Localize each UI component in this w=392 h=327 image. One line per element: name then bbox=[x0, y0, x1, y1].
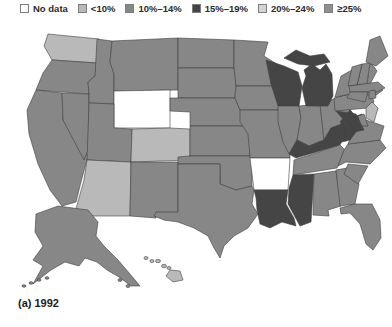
state-nebraska bbox=[170, 98, 246, 126]
legend-item-20-24: 20%–24% bbox=[258, 3, 314, 14]
figure-caption: (a) 1992 bbox=[18, 297, 59, 309]
legend-label: 20%–24% bbox=[271, 3, 314, 14]
state-michigan-upper bbox=[284, 50, 330, 66]
us-map-svg bbox=[0, 18, 392, 298]
ge25-swatch bbox=[324, 4, 333, 13]
legend-label: <10% bbox=[91, 3, 116, 14]
legend-label: 15%–19% bbox=[205, 3, 248, 14]
legend-item-15-19: 15%–19% bbox=[192, 3, 248, 14]
hawaii-island bbox=[156, 259, 161, 262]
state-montana bbox=[110, 38, 178, 91]
legend-label: 10%–14% bbox=[138, 3, 181, 14]
state-florida bbox=[340, 204, 381, 250]
legend-label: ≥25% bbox=[337, 3, 361, 14]
legend: No data <10% 10%–14% 15%–19% 20%–24% ≥25… bbox=[20, 3, 362, 14]
state-north-dakota bbox=[178, 38, 234, 68]
legend-label: No data bbox=[33, 3, 68, 14]
state-rhode-island bbox=[369, 90, 376, 99]
10-14-swatch bbox=[125, 4, 134, 13]
legend-item-no-data: No data bbox=[20, 3, 68, 14]
state-kansas bbox=[190, 126, 250, 156]
state-washington bbox=[44, 34, 99, 63]
state-maine bbox=[366, 36, 388, 66]
state-wyoming bbox=[114, 90, 170, 128]
state-michigan-lower bbox=[302, 64, 333, 106]
20-24-swatch bbox=[258, 4, 267, 13]
lt10-swatch bbox=[78, 4, 87, 13]
legend-item-10-14: 10%–14% bbox=[125, 3, 181, 14]
legend-item-lt10: <10% bbox=[78, 3, 116, 14]
aleutian-island bbox=[22, 285, 26, 288]
state-arkansas bbox=[250, 158, 290, 190]
hawaii-island bbox=[167, 267, 171, 270]
hawaii-island bbox=[150, 260, 154, 263]
us-choropleth-map bbox=[0, 18, 392, 298]
hawaii-island bbox=[162, 264, 167, 267]
state-south-dakota bbox=[178, 68, 236, 98]
state-new-mexico bbox=[130, 162, 178, 218]
aleutian-island bbox=[29, 282, 33, 285]
state-oregon bbox=[36, 60, 97, 94]
state-north-carolina bbox=[338, 140, 386, 166]
aleutian-island bbox=[37, 279, 41, 282]
alaska-island bbox=[126, 285, 130, 288]
alaska-island bbox=[118, 279, 122, 282]
hawaii-island bbox=[144, 257, 148, 260]
state-alaska bbox=[33, 206, 140, 286]
state-indiana bbox=[297, 104, 324, 146]
no-data-swatch bbox=[20, 4, 29, 13]
aleutian-island bbox=[45, 277, 49, 280]
hawaii-big-island bbox=[166, 270, 183, 282]
legend-item-ge25: ≥25% bbox=[324, 3, 361, 14]
15-19-swatch bbox=[192, 4, 201, 13]
